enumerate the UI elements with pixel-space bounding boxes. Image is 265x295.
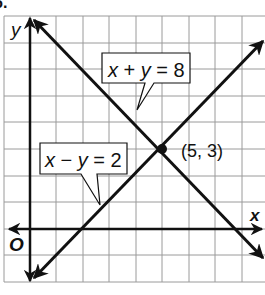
callout-x-plus-y: x + y = 8	[102, 53, 190, 110]
callout-2-op: −	[55, 149, 78, 171]
callout-1-rhs: = 8	[151, 59, 185, 81]
figure-number: 6.	[0, 0, 7, 11]
callout-1-op: +	[118, 59, 141, 81]
system-of-equations-graph: 6. y x O (5, 3)	[0, 0, 265, 295]
y-axis-label: y	[9, 19, 22, 40]
x-axis-label: x	[249, 206, 261, 225]
svg-text:x − y = 2: x − y = 2	[44, 149, 122, 171]
svg-text:x + y = 8: x + y = 8	[107, 59, 185, 81]
origin-label: O	[9, 234, 24, 255]
callout-2-rhs: = 2	[88, 149, 122, 171]
intersection-label: (5, 3)	[181, 141, 223, 161]
intersection-point	[157, 144, 167, 154]
